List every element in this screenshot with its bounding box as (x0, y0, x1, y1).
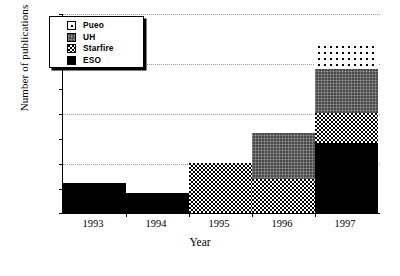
legend-item-uh: UH (50, 32, 143, 44)
legend-swatch-pueo-icon (67, 21, 76, 30)
x-tick-label-1994: 1994 (126, 218, 186, 229)
bar-1995 (189, 163, 252, 213)
x-tick-mark-3 (252, 213, 253, 217)
x-tick-label-1995: 1995 (189, 218, 249, 229)
legend-label-starfire: Starfire (83, 44, 114, 53)
legend-swatch-eso-icon (67, 56, 76, 65)
bar-segment-1997-eso (315, 143, 378, 213)
chart-legend: Pueo UH Starfire ESO (49, 16, 144, 68)
legend-swatch-starfire-icon (67, 44, 76, 53)
bar-segment-1994-eso (126, 193, 189, 213)
legend-label-eso: ESO (83, 56, 101, 65)
bar-1996 (252, 133, 315, 213)
bar-1997 (315, 43, 378, 213)
bar-segment-1997-pueo (315, 43, 378, 69)
bar-1994 (126, 193, 189, 213)
x-tick-mark-4 (315, 213, 316, 217)
legend-item-pueo: Pueo (50, 20, 143, 32)
y-tick-mark-0 (59, 213, 63, 214)
legend-item-starfire: Starfire (50, 43, 143, 55)
x-tick-label-1993: 1993 (63, 218, 123, 229)
bar-segment-1997-uh (315, 69, 378, 113)
bar-segment-1996-starfire (252, 179, 315, 213)
x-tick-label-1997: 1997 (315, 218, 375, 229)
x-tick-mark-2 (189, 213, 190, 217)
legend-item-eso: ESO (50, 55, 143, 67)
bar-segment-1995-starfire (189, 163, 252, 213)
publications-bar-chart: Number of publications 20 15 10 5 (0, 0, 400, 276)
bar-segment-1993-eso (63, 183, 126, 213)
bar-segment-1997-starfire (315, 113, 378, 143)
bar-1993 (63, 183, 126, 213)
y-axis-title: Number of publications (18, 0, 30, 138)
legend-label-pueo: Pueo (83, 21, 104, 30)
x-tick-label-1996: 1996 (252, 218, 312, 229)
x-axis-title: Year (0, 236, 400, 248)
legend-swatch-uh-icon (67, 33, 76, 42)
x-tick-mark-1 (126, 213, 127, 217)
bar-segment-1996-uh (252, 133, 315, 179)
legend-label-uh: UH (83, 33, 95, 42)
